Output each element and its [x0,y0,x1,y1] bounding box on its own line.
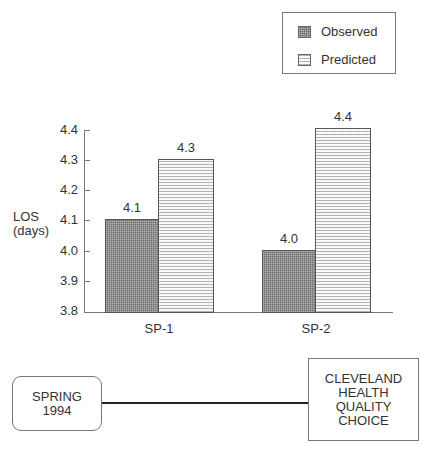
value-label-sp2-predicted: 4.4 [313,109,373,124]
y-tick-label: 3.9 [48,273,78,288]
value-label-sp1-predicted: 4.3 [156,140,216,155]
legend-item-observed: Observed [298,24,377,39]
y-tick [85,160,90,161]
bar-sp2-observed [262,250,316,313]
source-box: CLEVELAND HEALTH QUALITY CHOICE [308,358,419,441]
y-tick-label: 4.2 [48,182,78,197]
source-box-line: QUALITY [325,400,402,414]
y-tick-label: 3.8 [48,303,78,318]
legend: Observed Predicted [282,12,396,74]
source-box-line: CLEVELAND [325,372,402,386]
source-box-line: CHOICE [325,414,402,428]
y-tick-label: 4.0 [48,243,78,258]
date-box-line1: SPRING [32,390,82,404]
legend-label: Observed [321,24,377,39]
y-axis-line [84,130,85,313]
date-box-line2: 1994 [32,404,82,418]
x-category-label: SP-1 [129,321,189,336]
y-tick-label: 4.1 [48,212,78,227]
bar-sp1-predicted [158,159,214,313]
y-axis-label: LOS (days) [13,210,49,238]
y-tick [85,281,90,282]
y-axis-label-line1: LOS [13,210,49,224]
x-category-label: SP-2 [286,321,346,336]
bar-sp2-predicted [315,128,371,313]
y-tick-label: 4.3 [48,152,78,167]
date-box: SPRING 1994 [12,376,102,431]
y-tick [85,251,90,252]
legend-item-predicted: Predicted [298,52,376,67]
y-tick [85,130,90,131]
y-axis-label-line2: (days) [13,224,49,238]
bar-sp1-observed [105,219,159,313]
value-label-sp2-observed: 4.0 [259,231,319,246]
y-tick-label: 4.4 [48,122,78,137]
observed-swatch-icon [298,26,311,38]
connector-line [102,402,308,404]
source-box-line: HEALTH [325,386,402,400]
predicted-swatch-icon [298,54,311,66]
y-tick [85,190,90,191]
legend-label: Predicted [321,52,376,67]
value-label-sp1-observed: 4.1 [102,200,162,215]
y-tick [85,220,90,221]
